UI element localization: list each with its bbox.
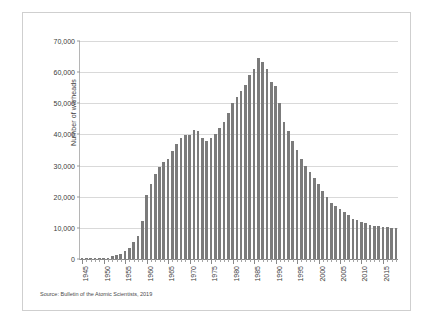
x-tick-mark <box>370 259 371 262</box>
bar <box>231 103 234 259</box>
x-tick-mark <box>237 259 238 262</box>
x-tick-mark <box>164 259 165 262</box>
bar <box>253 69 256 259</box>
x-tick-mark <box>202 259 203 262</box>
bar <box>150 184 153 259</box>
x-tick-label-1955: 1955 <box>125 266 132 282</box>
bar <box>270 82 273 260</box>
bar <box>360 222 363 259</box>
x-tick-mark <box>181 259 182 262</box>
x-tick-mark <box>104 259 105 264</box>
x-tick-mark <box>293 259 294 262</box>
bar <box>266 69 269 259</box>
x-tick-mark <box>112 259 113 262</box>
x-tick-mark <box>220 259 221 262</box>
y-tick-label-10000: 10,000 <box>54 224 75 231</box>
x-tick-mark <box>319 259 320 264</box>
x-tick-mark <box>129 259 130 262</box>
x-tick-mark <box>366 259 367 262</box>
bar <box>377 226 380 259</box>
bar <box>352 219 355 259</box>
x-tick-mark <box>233 259 234 264</box>
x-tick-mark <box>276 259 277 264</box>
x-tick-label-1960: 1960 <box>146 266 153 282</box>
bar <box>162 162 165 259</box>
bar <box>137 236 140 259</box>
x-tick-mark <box>396 259 397 262</box>
x-tick-mark <box>207 259 208 262</box>
x-tick-mark <box>340 259 341 264</box>
source-note: Source: Bulletin of the Atomic Scientist… <box>40 291 152 297</box>
bar <box>339 209 342 259</box>
x-tick-mark <box>108 259 109 262</box>
bar <box>248 75 251 259</box>
bar <box>334 206 337 259</box>
x-tick-mark <box>314 259 315 262</box>
plot-area: 010,00020,00030,00040,00050,00060,00070,… <box>79 41 398 260</box>
bar <box>390 228 393 259</box>
x-tick-mark <box>211 259 212 264</box>
x-tick-mark <box>323 259 324 262</box>
x-tick-mark <box>95 259 96 262</box>
x-tick-mark <box>258 259 259 262</box>
x-tick-mark <box>151 259 152 262</box>
x-tick-mark <box>271 259 272 262</box>
x-tick-mark <box>250 259 251 262</box>
x-tick-mark <box>86 259 87 262</box>
bar <box>330 203 333 259</box>
x-tick-mark <box>125 259 126 264</box>
x-tick-label-1970: 1970 <box>189 266 196 282</box>
x-tick-label-1985: 1985 <box>254 266 261 282</box>
x-tick-mark <box>245 259 246 262</box>
bar <box>223 122 226 259</box>
x-tick-label-1995: 1995 <box>297 266 304 282</box>
x-tick-label-1975: 1975 <box>211 266 218 282</box>
y-tick-label-70000: 70,000 <box>54 38 75 45</box>
x-tick-mark <box>190 259 191 264</box>
chart-figure: Number of warheads 010,00020,00030,00040… <box>22 12 411 311</box>
x-tick-label-1945: 1945 <box>82 266 89 282</box>
bar <box>278 103 281 259</box>
bar <box>261 62 264 259</box>
bar-series <box>80 41 398 259</box>
bar <box>300 159 303 259</box>
x-tick-label-2005: 2005 <box>339 266 346 282</box>
bar <box>287 131 290 259</box>
y-tick-label-0: 0 <box>71 256 75 263</box>
bar <box>326 197 329 259</box>
x-tick-mark <box>228 259 229 262</box>
x-tick-mark <box>142 259 143 262</box>
x-tick-mark <box>117 259 118 262</box>
x-tick-mark <box>349 259 350 262</box>
bar <box>141 221 144 259</box>
bar <box>205 141 208 259</box>
bar <box>180 138 183 259</box>
x-tick-mark <box>172 259 173 262</box>
bar <box>291 141 294 259</box>
y-tick-label-40000: 40,000 <box>54 131 75 138</box>
x-tick-mark <box>121 259 122 262</box>
bar <box>364 223 367 259</box>
x-tick-mark <box>288 259 289 262</box>
bar <box>171 151 174 259</box>
x-tick-mark <box>198 259 199 262</box>
x-tick-mark <box>263 259 264 262</box>
x-tick-label-2010: 2010 <box>361 266 368 282</box>
x-tick-mark <box>357 259 358 262</box>
x-tick-mark <box>194 259 195 262</box>
x-tick-label-1950: 1950 <box>103 266 110 282</box>
bar <box>214 134 217 259</box>
bar <box>236 97 239 259</box>
y-tick-label-60000: 60,000 <box>54 69 75 76</box>
x-tick-label-2015: 2015 <box>382 266 389 282</box>
bar <box>395 228 398 259</box>
bar <box>124 251 127 259</box>
bar <box>296 150 299 259</box>
bar <box>309 172 312 259</box>
bar <box>321 191 324 260</box>
x-tick-mark <box>254 259 255 264</box>
x-tick-mark <box>301 259 302 262</box>
bar <box>386 227 389 259</box>
x-tick-mark <box>280 259 281 262</box>
bar <box>210 138 213 259</box>
